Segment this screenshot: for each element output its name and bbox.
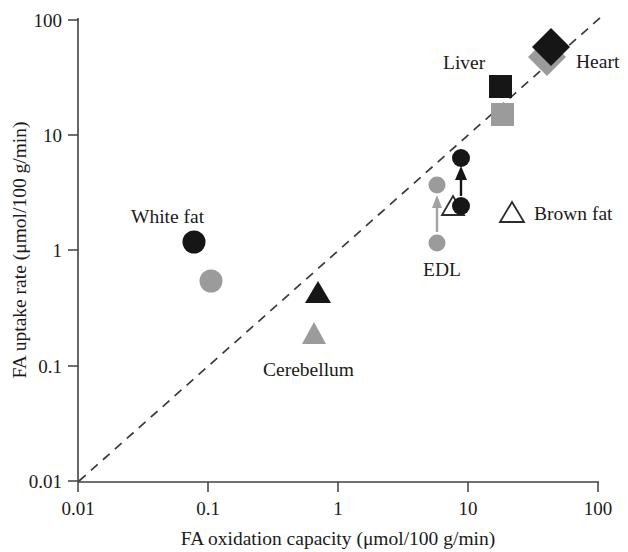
y-axis-title: FA uptake rate (μmol/100 g/min) (9, 121, 31, 378)
black-square-marker (489, 75, 512, 98)
x-tick-label-0.1: 0.1 (196, 498, 220, 519)
annotation-cerebellum: Cerebellum (263, 359, 354, 380)
black-arrow-head (455, 166, 467, 180)
y-tick-label-0.01: 0.01 (29, 471, 62, 492)
datapoint-edl-gray-high (429, 177, 446, 194)
y-tick-label-0.1: 0.1 (38, 356, 62, 377)
gray-arrow-head (432, 195, 442, 208)
datapoint-liver-gray (491, 103, 514, 126)
open-triangle-icon (500, 202, 524, 222)
datapoint-edl-black-high (452, 149, 470, 167)
datapoint-cerebellum-gray (302, 322, 326, 344)
gray-circle-marker (429, 177, 446, 194)
x-tick-label-10: 10 (459, 498, 478, 519)
black-triangle-marker (305, 281, 331, 303)
annotation-heart: Heart (576, 51, 620, 72)
gray-triangle-marker (302, 322, 326, 344)
annotation-white-fat: White fat (131, 206, 205, 227)
scatter-plot: 100 10 1 0.1 0.01 0.01 0.1 1 10 100 FA o… (0, 0, 628, 552)
arrow-edl-black (455, 166, 467, 196)
y-tick-label-100: 100 (34, 10, 63, 31)
datapoint-white-fat-gray (200, 270, 223, 293)
annotation-liver: Liver (443, 52, 486, 73)
x-tick-labels: 0.01 0.1 1 10 100 (61, 498, 612, 519)
gray-circle-marker (429, 235, 446, 252)
figure-container: 100 10 1 0.1 0.01 0.01 0.1 1 10 100 FA o… (0, 0, 628, 552)
black-circle-marker (452, 149, 470, 167)
arrow-edl-gray (432, 195, 442, 232)
datapoint-white-fat-black (183, 231, 206, 254)
y-tick-labels: 100 10 1 0.1 0.01 (29, 10, 62, 492)
datapoint-liver-black (489, 75, 512, 98)
datapoint-edl-gray-low (429, 235, 446, 252)
gray-circle-marker (200, 270, 223, 293)
datapoint-cerebellum-black (305, 281, 331, 303)
legend-brown-fat: Brown fat (500, 202, 613, 224)
identity-reference-line (79, 17, 601, 481)
y-tick-label-10: 10 (43, 125, 62, 146)
datapoint-edl-black-low (452, 197, 470, 215)
y-tick-label-1: 1 (53, 240, 63, 261)
annotation-edl: EDL (423, 259, 461, 280)
x-tick-label-0.01: 0.01 (61, 498, 94, 519)
gray-square-marker (491, 103, 514, 126)
legend-label-brown-fat: Brown fat (534, 203, 613, 224)
x-tick-label-100: 100 (584, 498, 613, 519)
x-axis-title: FA oxidation capacity (μmol/100 g/min) (181, 528, 495, 550)
x-tick-label-1: 1 (333, 498, 343, 519)
black-circle-marker (452, 197, 470, 215)
black-circle-marker (183, 231, 206, 254)
